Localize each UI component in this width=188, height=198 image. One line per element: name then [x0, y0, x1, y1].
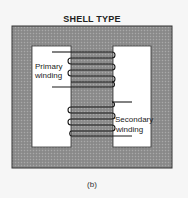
figure-caption: (b) — [0, 180, 184, 189]
primary-label-line1: Primary — [35, 62, 63, 71]
secondary-label-line1: Secondary — [115, 115, 153, 124]
secondary-label-line2: winding — [115, 125, 143, 134]
primary-label-line2: winding — [34, 71, 62, 80]
shell-type-transformer-diagram: Primary winding Secondary winding — [0, 0, 188, 198]
transformer-core — [12, 26, 172, 168]
